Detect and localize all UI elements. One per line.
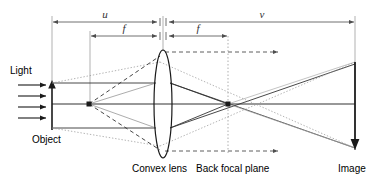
ray-diagram-svg: u f f v	[0, 0, 388, 181]
image-arrow	[351, 62, 360, 150]
dimension-u: u	[53, 8, 157, 22]
back-focal-plane-label: Back focal plane	[196, 163, 270, 174]
dimension-u-label: u	[102, 8, 108, 20]
dimension-f-front: f	[91, 22, 157, 36]
image-label: Image	[338, 163, 366, 174]
object-point-marker	[87, 102, 92, 107]
object-arrow	[48, 80, 56, 130]
image-arrow-head	[351, 139, 360, 150]
object-arrow-head	[48, 80, 56, 89]
rays-from-object-point	[89, 83, 156, 128]
dimension-v: v	[169, 8, 354, 22]
dimension-v-label: v	[260, 8, 265, 20]
dimension-f-back-label: f	[196, 22, 201, 34]
incoming-light-arrows	[18, 85, 46, 118]
converging-rays-to-focus	[170, 83, 228, 128]
ray-bundle-from-object-top	[52, 83, 355, 148]
light-label: Light	[10, 65, 32, 76]
object-label: Object	[32, 134, 61, 145]
back-focal-point-marker	[226, 102, 231, 107]
optics-diagram-canvas: u f f v	[0, 0, 388, 181]
convex-lens-label: Convex lens	[132, 163, 187, 174]
ray-bundle-from-object-bottom	[52, 64, 355, 128]
diverging-rays-after-focus	[228, 62, 355, 148]
dimension-f-front-label: f	[122, 22, 127, 34]
construction-rays-dotted	[52, 62, 355, 148]
dimension-f-back: f	[169, 22, 227, 36]
dimension-guide-lines	[52, 16, 355, 104]
